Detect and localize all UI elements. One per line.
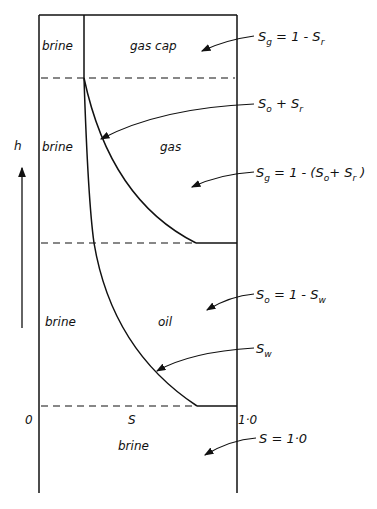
- eq-s-one: S = 1·0: [259, 431, 307, 446]
- leader-sg-gascap: [202, 36, 254, 51]
- eq-so-oil: So = 1 - Sw: [256, 287, 326, 305]
- brine-saturation-curve-upper: [84, 15, 94, 243]
- saturation-diagram: h brine gas cap brine gas brine oil brin…: [0, 0, 377, 509]
- so-sr-curve: [84, 78, 196, 243]
- leader-so-sr: [101, 104, 254, 139]
- zone-label-brine-bottom: brine: [118, 439, 149, 453]
- zone-label-oil: oil: [158, 315, 173, 329]
- leader-s-one: [205, 438, 256, 455]
- axis-min-label: 0: [25, 413, 33, 427]
- leader-sw: [157, 348, 254, 371]
- zone-label-brine-gas: brine: [42, 140, 73, 154]
- zone-label-gas-cap: gas cap: [130, 39, 177, 53]
- eq-sw: Sw: [256, 341, 272, 359]
- zone-label-brine-top: brine: [42, 39, 73, 53]
- zone-label-brine-oil: brine: [45, 315, 76, 329]
- axis-label-h: h: [14, 139, 22, 153]
- eq-sg-gascap: Sg = 1 - Sr: [258, 29, 326, 47]
- leader-sg-gaszone: [192, 172, 254, 187]
- axis-label-s: S: [128, 413, 136, 427]
- axis-max-label: 1·0: [238, 413, 257, 427]
- eq-so-sr: So + Sr: [258, 96, 304, 114]
- sw-curve: [94, 243, 197, 406]
- frame: [39, 15, 237, 493]
- zone-label-gas: gas: [160, 140, 181, 154]
- leader-so-oil: [207, 294, 254, 310]
- eq-sg-gaszone: Sg = 1 - (So+ Sr ): [256, 165, 365, 183]
